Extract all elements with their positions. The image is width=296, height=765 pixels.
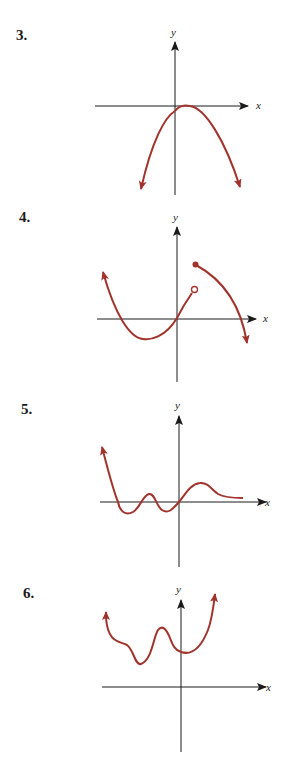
y-axis-label: y — [175, 583, 181, 595]
graphs-canvas: x y x y x y x y — [0, 0, 296, 765]
curve — [102, 447, 243, 514]
y-axis-label: y — [172, 211, 178, 223]
curve-left — [106, 612, 181, 664]
curve-right — [181, 594, 215, 653]
graph-5: x y — [100, 399, 270, 567]
curve-right-branch — [196, 265, 247, 343]
x-axis-label: x — [264, 496, 270, 508]
graph-4: x y — [97, 211, 268, 382]
closed-dot — [193, 262, 199, 268]
curve-left-branch — [103, 272, 192, 339]
graph-3: x y — [95, 26, 261, 195]
x-axis-label: x — [262, 312, 268, 324]
open-circle — [192, 287, 198, 293]
x-axis-label: x — [255, 99, 261, 111]
curve-right — [175, 105, 240, 187]
y-axis-label: y — [174, 399, 180, 411]
graph-6: x y — [102, 583, 271, 752]
y-axis-label: y — [170, 26, 176, 38]
curve-left — [141, 111, 175, 189]
x-axis-label: x — [265, 681, 271, 693]
